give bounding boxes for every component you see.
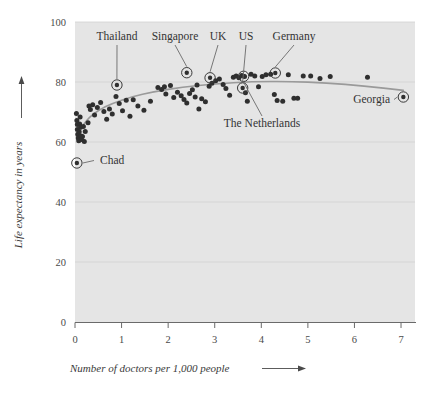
annotation-label: Singapore xyxy=(152,30,199,43)
data-point xyxy=(263,72,268,77)
data-point xyxy=(86,104,91,109)
data-point xyxy=(78,115,83,120)
data-point xyxy=(175,90,180,95)
data-point xyxy=(110,112,115,117)
data-point xyxy=(127,114,132,119)
data-point xyxy=(275,98,280,103)
y-axis-title-text: Life expectancy in years xyxy=(12,142,24,250)
data-point xyxy=(80,134,85,139)
data-point xyxy=(190,87,195,92)
annotation-label: Chad xyxy=(100,154,125,166)
data-point xyxy=(256,84,261,89)
highlight-dot xyxy=(185,71,189,75)
annotation-label: Georgia xyxy=(353,93,390,106)
data-point xyxy=(217,77,222,82)
data-point xyxy=(162,84,167,89)
highlight-dot xyxy=(115,83,119,87)
data-point xyxy=(82,139,87,144)
data-point xyxy=(86,120,91,125)
data-point xyxy=(131,97,136,102)
data-point xyxy=(107,107,112,112)
highlight-dot xyxy=(208,76,212,80)
y-tick-label: 60 xyxy=(56,137,67,148)
annotation-label: The Netherlands xyxy=(224,117,301,129)
data-point xyxy=(203,99,208,104)
data-point xyxy=(295,96,300,101)
x-tick-label: 7 xyxy=(398,334,403,345)
x-tick-label: 5 xyxy=(305,334,310,345)
data-point xyxy=(141,108,146,113)
data-point xyxy=(221,82,226,87)
data-point xyxy=(95,105,100,110)
annotation-label: UK xyxy=(210,30,227,42)
y-tick-label: 20 xyxy=(56,257,67,268)
data-point xyxy=(81,124,86,129)
scatter-chart: ThailandSingaporeUKUSGermanyThe Netherla… xyxy=(0,0,438,393)
annotation-label: Germany xyxy=(273,30,316,43)
highlight-dot xyxy=(401,95,405,99)
x-tick-label: 1 xyxy=(119,334,124,345)
data-point xyxy=(104,117,109,122)
data-point xyxy=(308,74,313,79)
data-point xyxy=(92,113,97,118)
data-point xyxy=(328,74,333,79)
data-point xyxy=(135,104,140,109)
data-point xyxy=(317,76,322,81)
plot-area-background xyxy=(75,22,415,322)
x-tick-label: 3 xyxy=(212,334,217,345)
data-point xyxy=(280,99,285,104)
y-tick-label: 40 xyxy=(56,197,67,208)
y-tick-label: 0 xyxy=(61,317,66,328)
data-point xyxy=(148,99,153,104)
annotation-label: US xyxy=(239,30,254,42)
data-point xyxy=(195,83,200,88)
data-point xyxy=(101,109,106,114)
data-point xyxy=(98,100,103,105)
data-point xyxy=(113,94,118,99)
data-point xyxy=(163,92,168,97)
x-tick-label: 2 xyxy=(166,334,171,345)
highlight-dot xyxy=(75,161,79,165)
y-tick-label: 80 xyxy=(56,77,67,88)
data-point xyxy=(227,93,232,98)
data-point xyxy=(365,75,370,80)
data-point xyxy=(196,107,201,112)
data-point xyxy=(171,95,176,100)
highlight-dot xyxy=(240,86,244,90)
data-point xyxy=(74,111,79,116)
data-point xyxy=(124,98,129,103)
data-point xyxy=(245,99,250,104)
data-point xyxy=(272,92,277,97)
data-point xyxy=(223,86,228,91)
data-point xyxy=(252,74,257,79)
data-point xyxy=(301,74,306,79)
data-point xyxy=(83,129,88,134)
x-axis-title-text: Number of doctors per 1,000 people xyxy=(69,362,230,374)
data-point xyxy=(193,95,198,100)
data-point xyxy=(168,83,173,88)
x-tick-label: 0 xyxy=(72,334,77,345)
x-tick-label: 6 xyxy=(352,334,357,345)
data-point xyxy=(286,72,291,77)
annotation-label: Thailand xyxy=(97,30,138,42)
data-point xyxy=(184,101,189,106)
data-point xyxy=(117,101,122,106)
x-tick-label: 4 xyxy=(259,334,265,345)
chart-container: ThailandSingaporeUKUSGermanyThe Netherla… xyxy=(0,0,438,393)
data-point xyxy=(120,108,125,113)
highlight-dot xyxy=(273,71,277,75)
y-tick-label: 100 xyxy=(50,17,66,28)
